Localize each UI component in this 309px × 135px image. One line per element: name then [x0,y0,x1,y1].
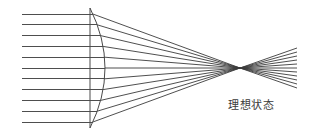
ray-line [97,25,240,68]
diagram-caption: 理想状态 [228,99,274,113]
ray-line [240,68,297,76]
ray-line [101,68,240,100]
ray-line [101,36,240,68]
ray-line [97,68,240,111]
ray-line [240,60,297,68]
ray-line [105,57,240,68]
ray-line [103,68,240,90]
incoming-rays-group [22,14,105,122]
ray-line [105,68,240,79]
ray-line [103,46,240,68]
converging-rays-group [93,14,240,122]
diverging-rays-group [240,48,297,88]
ray-diagram-canvas [0,0,309,135]
optics-diagram-figure: 理想状态 [0,0,309,135]
ray-line [93,14,240,68]
ray-line [93,68,240,122]
